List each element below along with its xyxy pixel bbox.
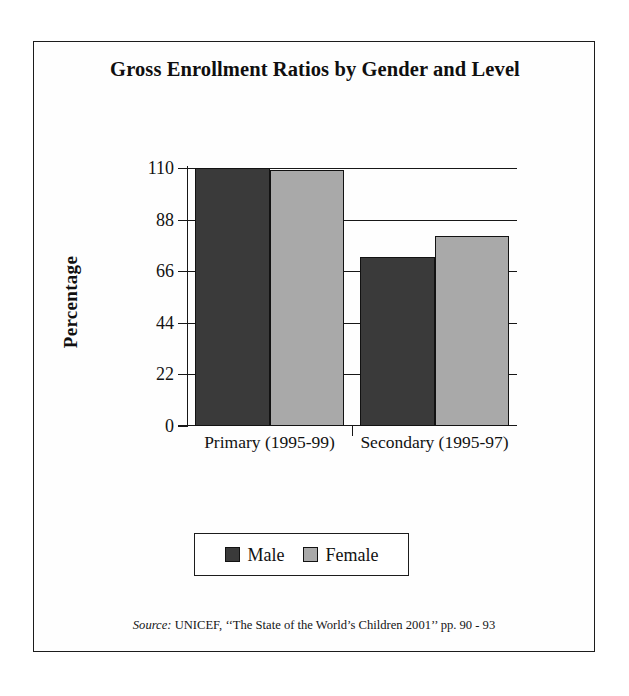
y-tick-mark [178,220,187,221]
y-tick-label: 44 [156,314,174,332]
y-tick-mark [178,168,187,169]
plot-inner: 022446688110 [187,168,517,426]
y-tick-mark [178,426,187,427]
y-tick-mark [178,323,187,324]
y-axis-title-label: Percentage [60,256,82,348]
legend-entry-male: Male [225,546,285,564]
y-tick-label: 22 [156,365,174,383]
y-axis-title: Percentage [59,212,83,392]
y-tick-label: 0 [165,417,174,435]
y-axis-line [187,166,188,427]
y-tick-label: 66 [156,262,174,280]
source-keyword: Source: [133,618,172,632]
bar-primary-male [195,168,270,426]
y-tick-mark [178,271,187,272]
y-tick-label: 88 [156,211,174,229]
bar-secondary-female [435,236,510,426]
x-axis-category-labels: Primary (1995-99)Secondary (1995-97) [187,431,527,457]
legend-label-male: Male [248,546,285,564]
x-axis-label-secondary: Secondary (1995-97) [352,431,517,453]
legend-entry-female: Female [303,546,379,564]
y-tick-label: 110 [148,159,174,177]
legend-label-female: Female [326,546,379,564]
bar-secondary-male [360,257,435,426]
plot-area: 022446688110 [187,168,517,426]
chart-legend: MaleFemale [194,533,409,576]
x-axis-label-primary: Primary (1995-99) [187,431,352,453]
bar-primary-female [270,170,345,426]
source-text: UNICEF, ‘‘The State of the World’s Child… [171,618,495,632]
source-note: Source: UNICEF, ‘‘The State of the World… [34,617,594,633]
chart-title: Gross Enrollment Ratios by Gender and Le… [94,56,536,83]
legend-swatch-female [303,547,318,562]
legend-swatch-male [225,547,240,562]
figure-frame: Gross Enrollment Ratios by Gender and Le… [33,41,595,652]
y-tick-mark [178,374,187,375]
